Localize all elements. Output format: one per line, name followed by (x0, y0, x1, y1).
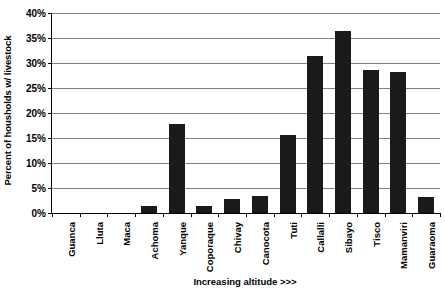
y-tick-label: 40% (26, 8, 46, 19)
y-axis-title-text: Percent of housholds w/ livestock (3, 35, 14, 185)
x-tick-label: Tisco (370, 222, 384, 284)
y-tick-label: 0% (32, 208, 46, 219)
bar (252, 196, 268, 214)
x-tick-label: Achoma (148, 222, 162, 284)
y-tick-label: 5% (32, 183, 46, 194)
x-tick-label: Callalli (314, 222, 328, 284)
x-tick-label: Coporaque (203, 222, 217, 284)
x-tick-label: Sibayo (342, 222, 356, 284)
x-tick-label: Lluta (93, 222, 107, 284)
y-tick-label: 10% (26, 158, 46, 169)
x-tickmark (440, 213, 441, 217)
y-tick-label: 15% (26, 133, 46, 144)
bar (363, 70, 379, 214)
x-tick-label: Guanca (65, 222, 79, 284)
y-axis-tick-labels: 0%5%10%15%20%25%30%35%40% (14, 0, 50, 220)
y-tick-label: 20% (26, 108, 46, 119)
bar (196, 206, 212, 214)
bar (307, 56, 323, 214)
x-axis-tick-labels: GuancaLlutaMacaAchomaYanqueCoporaqueChiv… (51, 215, 439, 277)
x-tick-label: Chivay (231, 222, 245, 284)
x-tick-label: Tuti (287, 222, 301, 284)
bar (169, 124, 185, 213)
x-tick-label: Maca (120, 222, 134, 284)
x-tick-label: Guaraoma (425, 222, 439, 284)
x-tick-label: Mamanviri (397, 222, 411, 284)
bar (224, 199, 240, 214)
bar (418, 197, 434, 214)
bar (390, 72, 406, 213)
x-tick-label: Yanque (176, 222, 190, 284)
x-tick-label: Canocota (259, 222, 273, 284)
y-tick-label: 25% (26, 83, 46, 94)
y-tick-label: 35% (26, 33, 46, 44)
bar (280, 135, 296, 213)
x-axis-title: Increasing altitude >>> (51, 276, 439, 287)
bar (335, 31, 351, 214)
bar-chart-figure: Percent of housholds w/ livestock 0%5%10… (0, 0, 445, 294)
y-tick-label: 30% (26, 58, 46, 69)
bars-layer (52, 13, 440, 213)
bar (141, 206, 157, 214)
plot-area (51, 13, 440, 214)
